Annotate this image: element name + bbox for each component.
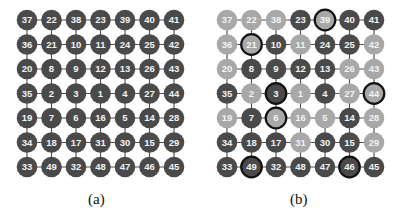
node-label: 29 [369,137,380,148]
node-label: 45 [169,161,180,172]
grid-node-highlighted: 3 [266,83,287,104]
grid-node: 35 [17,83,38,104]
node-label: 36 [222,39,233,50]
node-label: 20 [222,63,233,74]
node-label: 33 [222,161,233,172]
node-label: 49 [246,161,257,172]
grid-node: 20 [17,59,38,80]
grid-node: 18 [241,132,262,153]
node-label: 38 [271,14,282,25]
grid-node: 30 [315,132,336,153]
grid-node: 15 [339,132,360,153]
node-label: 43 [369,63,380,74]
node-label: 11 [95,39,106,50]
grid-node: 47 [115,157,136,178]
node-label: 15 [344,137,355,148]
node-label: 35 [222,88,233,99]
grid-node: 4 [315,83,336,104]
node-label: 40 [344,14,355,25]
node-label: 1 [298,88,304,99]
node-label: 2 [49,88,54,99]
grid-node: 8 [41,59,62,80]
node-label: 46 [144,161,155,172]
node-label: 8 [249,63,254,74]
grid-node: 37 [17,10,38,31]
node-label: 37 [22,14,33,25]
caption-b: (b) [290,191,308,208]
grid-node: 34 [217,132,238,153]
grid-node: 48 [290,157,311,178]
node-label: 14 [144,112,155,123]
node-label: 29 [169,137,180,148]
grid-node: 9 [66,59,87,80]
grid-node: 3 [66,83,87,104]
node-label: 16 [95,112,106,123]
node-label: 4 [322,88,328,99]
grid-node: 7 [241,108,262,129]
grid-node: 33 [17,157,38,178]
grid-node-highlighted: 21 [241,34,262,55]
grid-node: 21 [41,34,62,55]
node-label: 10 [271,39,282,50]
grid-node: 40 [139,10,160,31]
grid-node: 41 [364,10,385,31]
node-label: 27 [144,88,155,99]
grid-node: 32 [66,157,87,178]
spiral-grid-b: 3722382339404136211011242542208912132643… [200,0,395,190]
node-label: 7 [249,112,254,123]
node-label: 14 [344,112,355,123]
node-label: 22 [246,14,257,25]
node-label: 16 [295,112,306,123]
node-label: 20 [22,63,33,74]
grid-node: 1 [290,83,311,104]
node-label: 18 [46,137,57,148]
grid-node: 2 [241,83,262,104]
node-label: 17 [71,137,82,148]
node-label: 46 [344,161,355,172]
grid-node: 6 [66,108,87,129]
node-label: 22 [46,14,57,25]
grid-node-highlighted: 49 [241,157,262,178]
grid-node: 40 [339,10,360,31]
grid-node: 27 [139,83,160,104]
grid-node: 11 [90,34,111,55]
grid-node: 27 [339,83,360,104]
node-label: 31 [95,137,106,148]
grid-node: 46 [139,157,160,178]
grid-node-highlighted: 44 [364,83,385,104]
grid-node: 34 [17,132,38,153]
grid-node: 10 [266,34,287,55]
grid-node: 37 [217,10,238,31]
node-label: 45 [369,161,380,172]
node-label: 26 [144,63,155,74]
node-label: 4 [122,88,128,99]
grid-node: 5 [315,108,336,129]
grid-node: 47 [315,157,336,178]
node-label: 39 [320,14,331,25]
grid-node: 19 [217,108,238,129]
grid-node-highlighted: 6 [266,108,287,129]
grid-node: 7 [41,108,62,129]
node-label: 23 [95,14,106,25]
node-label: 44 [369,88,380,99]
node-label: 25 [344,39,355,50]
grid-node: 31 [90,132,111,153]
node-label: 19 [22,112,33,123]
grid-node: 17 [266,132,287,153]
grid-node: 43 [164,59,185,80]
node-label: 8 [49,63,54,74]
node-label: 19 [222,112,233,123]
node-label: 9 [73,63,78,74]
node-label: 27 [344,88,355,99]
grid-node: 10 [66,34,87,55]
grid-node: 13 [315,59,336,80]
grid-node: 24 [315,34,336,55]
node-label: 6 [273,112,278,123]
node-label: 24 [320,39,331,50]
node-label: 42 [369,39,380,50]
node-label: 30 [120,137,131,148]
grid-node: 39 [115,10,136,31]
grid-node: 23 [90,10,111,31]
node-label: 13 [320,63,331,74]
grid-node: 17 [66,132,87,153]
